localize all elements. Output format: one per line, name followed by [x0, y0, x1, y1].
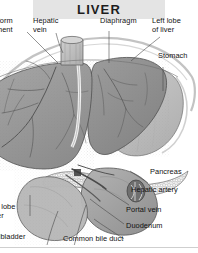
label-right-lobe-of-liver: t lobe er — [0, 203, 15, 220]
bottom-divider — [0, 247, 198, 248]
liver-anatomy-figure: LIVER — [0, 0, 198, 253]
label-pancreas: Pancreas — [150, 168, 182, 177]
label-duodenum: Duodenum — [126, 222, 163, 231]
label-hepatic-vein: Hepatic vein — [33, 17, 58, 34]
label-falciform-ligament: iform ment — [0, 17, 13, 34]
left-lobe-of-liver-organ — [86, 57, 170, 157]
label-stomach: Stomach — [158, 52, 188, 61]
label-left-lobe-of-liver: Left lobe of liver — [152, 17, 181, 34]
label-diaphragm: Diaphragm — [100, 17, 137, 26]
label-hepatic-artery: Hepatic artery — [131, 186, 178, 195]
label-portal-vein: Portal vein — [126, 206, 161, 215]
label-gallbladder: llbladder — [0, 233, 25, 242]
label-common-bile-duct: Common bile duct — [63, 235, 123, 244]
